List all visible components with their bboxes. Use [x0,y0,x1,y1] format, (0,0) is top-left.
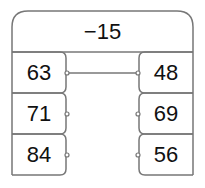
right-cell-value-1: 48 [139,62,193,84]
port-dots [65,71,140,157]
left-cell-value-1: 63 [12,62,66,84]
right-cell-value-3: 56 [139,144,193,166]
right-cell-value-2: 69 [139,103,193,125]
header-value: −15 [12,21,193,43]
left-cell-value-3: 84 [12,144,66,166]
left-cell-value-2: 71 [12,103,66,125]
